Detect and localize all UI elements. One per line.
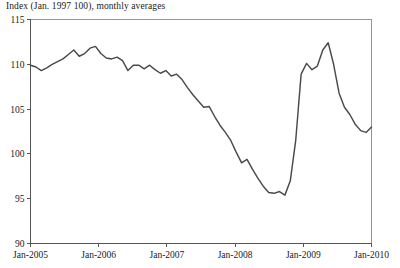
x-tick-label: Jan-2006 <box>81 250 116 260</box>
y-tick-label: 100 <box>10 149 25 159</box>
y-axis-ticks: 9095100105110115 <box>10 15 30 249</box>
x-tick-label: Jan-2005 <box>13 250 48 260</box>
y-tick-label: 90 <box>15 239 25 249</box>
x-tick-label: Jan-2007 <box>149 250 184 260</box>
chart-page: Index (Jan. 1997 100), monthly averages … <box>0 0 400 268</box>
x-tick-label: Jan-2010 <box>354 250 389 260</box>
index-series-line <box>31 43 372 195</box>
x-tick-label: Jan-2009 <box>286 250 321 260</box>
x-axis-ticks: Jan-2005Jan-2006Jan-2007Jan-2008Jan-2009… <box>13 244 389 260</box>
y-tick-label: 105 <box>10 105 25 115</box>
y-tick-label: 95 <box>15 194 25 204</box>
plot-frame <box>30 19 372 244</box>
line-chart: 9095100105110115 Jan-2005Jan-2006Jan-200… <box>0 0 400 268</box>
x-tick-label: Jan-2008 <box>218 250 253 260</box>
y-tick-label: 110 <box>11 60 25 70</box>
y-tick-label: 115 <box>11 15 25 25</box>
